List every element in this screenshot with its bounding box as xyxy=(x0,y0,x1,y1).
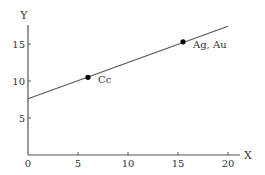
x-tick-label: 20 xyxy=(222,158,235,169)
y-tick-label: 15 xyxy=(12,39,25,50)
x-tick-label: 15 xyxy=(172,158,185,169)
data-point-label: Cc xyxy=(98,74,112,85)
y-tick-label: 10 xyxy=(12,76,25,87)
chart-plot-area: XY0510152051015CcAg, Au xyxy=(0,0,265,175)
data-point xyxy=(180,39,185,44)
chart: XY0510152051015CcAg, Au xyxy=(0,0,265,175)
x-tick-label: 0 xyxy=(25,158,31,169)
y-tick-label: 5 xyxy=(19,113,25,124)
trend-line xyxy=(28,26,228,99)
x-axis-title: X xyxy=(244,149,252,162)
x-tick-label: 5 xyxy=(75,158,81,169)
data-point-label: Ag, Au xyxy=(192,39,227,50)
data-point xyxy=(85,75,90,80)
x-tick-label: 10 xyxy=(122,158,135,169)
y-axis-title: Y xyxy=(19,9,28,22)
